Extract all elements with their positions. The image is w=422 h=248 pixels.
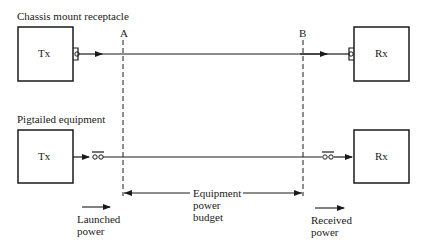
bottom-section-title: Pigtailed equipment [17,113,105,125]
bottom-tx-label: Tx [38,150,50,162]
top-rx-label: Rx [375,47,388,59]
reference-label-a: A [120,27,128,39]
budget-label-line2: power [193,199,241,211]
launched-label-line2: power [77,225,120,237]
rx-receptacle-icon [349,48,354,60]
launched-power-label: Launched power [77,213,120,237]
rx-pigtail-connector-icon [322,152,334,159]
top-tx-label: Tx [38,47,50,59]
bottom-rx-label: Rx [375,150,388,162]
budget-label-line1: Equipment [193,187,241,199]
top-section-title: Chassis mount receptacle [17,10,129,22]
budget-label-line3: budget [193,211,241,223]
tx-pigtail-connector-icon [92,152,104,159]
received-label-line1: Received [311,214,352,226]
received-label-line2: power [311,226,352,238]
reference-label-b: B [299,27,306,39]
tx-receptacle-icon [73,48,79,60]
budget-label: Equipment power budget [193,187,241,223]
received-power-label: Received power [311,214,352,238]
launched-label-line1: Launched [77,213,120,225]
